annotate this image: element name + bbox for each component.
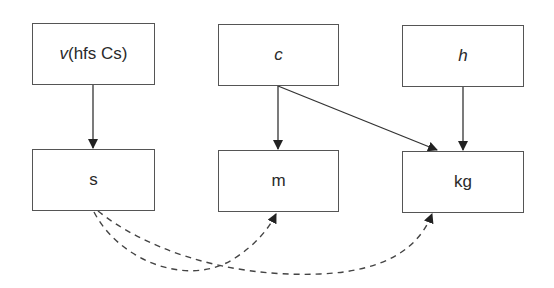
node-label: s <box>89 170 98 190</box>
edge-s-to-kg-dashed <box>98 211 432 274</box>
edge-s-to-m-dashed <box>94 212 276 271</box>
node-s: s <box>32 149 155 211</box>
node-label-italic: v <box>60 44 69 64</box>
node-h: h <box>402 25 524 87</box>
diagram-canvas: v(hfs Cs) c h s m kg <box>0 0 554 288</box>
node-kg: kg <box>402 151 524 213</box>
node-m: m <box>218 150 339 212</box>
node-v-hfs-cs: v(hfs Cs) <box>32 23 155 85</box>
node-label-italic: h <box>458 46 467 66</box>
node-label: (hfs Cs) <box>68 44 128 64</box>
node-c: c <box>218 24 339 86</box>
node-label: kg <box>454 172 472 192</box>
node-label-italic: c <box>274 45 283 65</box>
node-label: m <box>271 171 285 191</box>
edge-c-to-kg <box>278 86 437 150</box>
